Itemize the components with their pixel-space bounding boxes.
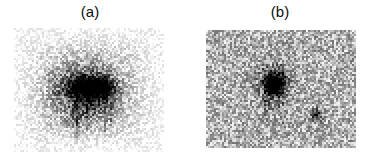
figure-root: (a) (b) — [0, 0, 376, 162]
panel-b-label: (b) — [260, 4, 300, 19]
panel-a-label: (a) — [70, 4, 110, 19]
panel-b-density-map — [206, 30, 356, 148]
panel-a-density-map — [14, 28, 164, 152]
